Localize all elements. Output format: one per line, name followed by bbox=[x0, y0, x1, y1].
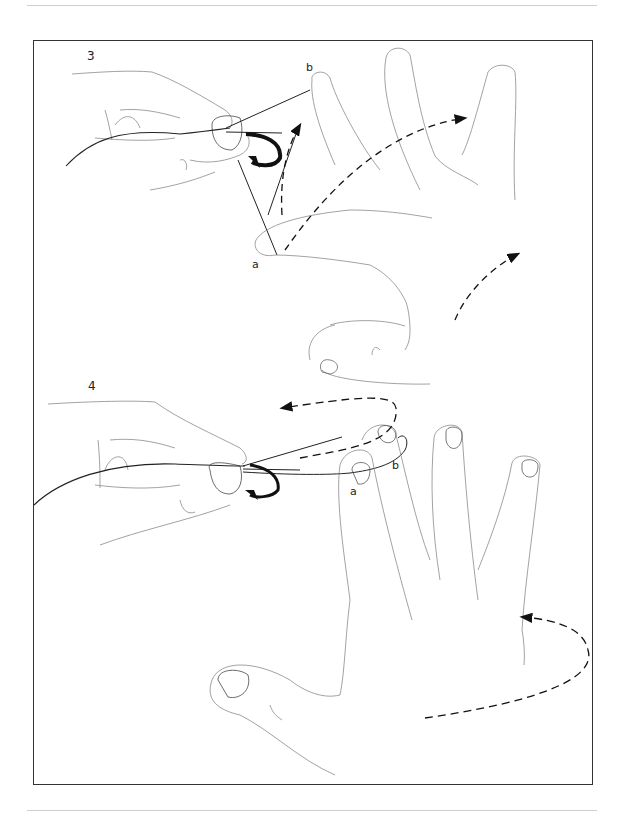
dashed-arrow-right bbox=[285, 118, 465, 250]
step-4-label-b: b bbox=[392, 459, 399, 472]
dashed-arrow-upright bbox=[455, 254, 518, 320]
step-4-line bbox=[34, 464, 245, 505]
step-4-label-a: a bbox=[350, 485, 357, 498]
step-3-label-b: b bbox=[306, 61, 313, 74]
hook-curved-arrow bbox=[246, 134, 280, 165]
step-3-label-a: a bbox=[252, 258, 259, 271]
step-3-right-hand bbox=[255, 48, 516, 384]
knot-illustration bbox=[0, 0, 628, 822]
step-3-left-hand bbox=[72, 71, 249, 190]
dashed-arrow-up-b bbox=[282, 125, 300, 215]
step-4-right-hand bbox=[210, 425, 540, 775]
dashed-loop-back bbox=[425, 617, 589, 718]
step-4-left-hand bbox=[48, 401, 246, 545]
step-3-line bbox=[66, 128, 230, 166]
step-number-4: 4 bbox=[88, 379, 96, 393]
step-number-3: 3 bbox=[87, 49, 95, 63]
footer-rule bbox=[27, 810, 597, 811]
